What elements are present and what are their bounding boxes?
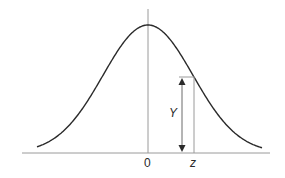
z-label: z — [189, 156, 196, 170]
origin-label: 0 — [144, 156, 151, 170]
normal-curve-diagram: Y 0 z — [0, 0, 285, 178]
bell-curve — [37, 25, 262, 148]
arrow-up-icon — [179, 78, 186, 85]
arrow-down-icon — [179, 145, 186, 152]
y-label: Y — [169, 106, 178, 120]
